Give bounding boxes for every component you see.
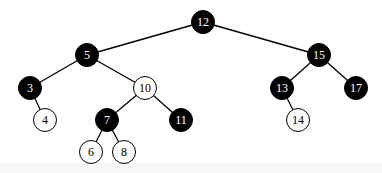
node-label: 5 [84, 48, 90, 63]
tree-node-8: 8 [112, 140, 136, 164]
node-label: 10 [139, 81, 151, 96]
node-label: 3 [27, 81, 33, 96]
node-label: 6 [88, 145, 94, 160]
node-label: 14 [292, 113, 304, 128]
tree-node-17: 17 [344, 76, 368, 100]
node-label: 17 [350, 81, 362, 96]
tree-node-15: 15 [307, 43, 331, 67]
node-label: 15 [313, 48, 325, 63]
node-label: 11 [175, 113, 187, 128]
tree-node-5: 5 [75, 43, 99, 67]
node-label: 13 [276, 81, 288, 96]
node-label: 12 [197, 15, 209, 30]
node-label: 4 [42, 113, 48, 128]
tree-node-13: 13 [270, 76, 294, 100]
node-label: 7 [104, 113, 110, 128]
tree-node-10: 10 [133, 76, 157, 100]
tree-node-6: 6 [79, 140, 103, 164]
tree-node-11: 11 [169, 108, 193, 132]
node-label: 8 [121, 145, 127, 160]
tree-node-12: 12 [191, 10, 215, 34]
edge-12-5 [87, 22, 203, 55]
tree-diagram: 12515310131747111468 [0, 0, 382, 173]
tree-node-4: 4 [33, 108, 57, 132]
tree-node-14: 14 [286, 108, 310, 132]
edge-12-15 [203, 22, 319, 55]
tree-node-7: 7 [95, 108, 119, 132]
tree-node-3: 3 [18, 76, 42, 100]
